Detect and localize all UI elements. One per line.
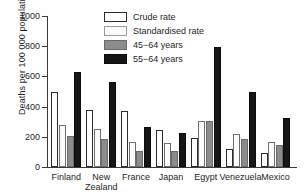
bar	[129, 142, 136, 167]
x-axis-line	[47, 167, 297, 168]
x-axis-label: Mexico	[247, 172, 304, 182]
bar	[101, 139, 108, 167]
y-tick-label: 600	[4, 72, 40, 81]
bar	[74, 72, 81, 167]
legend-item: 45−64 years	[104, 39, 204, 50]
bar	[283, 118, 290, 167]
bar	[121, 111, 128, 167]
bar	[276, 145, 283, 167]
bar	[171, 151, 178, 167]
bar	[109, 82, 116, 167]
y-tick-mark	[42, 167, 47, 168]
y-tick-mark	[42, 46, 47, 47]
bar	[268, 142, 275, 167]
bar	[164, 143, 171, 167]
legend-label: Standardised rate	[133, 26, 204, 36]
bar	[144, 127, 151, 167]
legend-label: 55−64 years	[133, 54, 183, 64]
bar-group	[226, 16, 256, 167]
bar	[226, 149, 233, 167]
bar-chart-figure: Deaths per 100 000 population 0200400600…	[0, 0, 304, 194]
bar	[198, 121, 205, 167]
legend-item: Standardised rate	[104, 25, 204, 36]
y-tick-mark	[42, 137, 47, 138]
bar	[59, 125, 66, 167]
y-tick-mark	[42, 16, 47, 17]
bar	[136, 151, 143, 167]
bar-group	[51, 16, 81, 167]
bar	[67, 136, 74, 167]
x-axis-label-line: Mexico	[261, 172, 290, 182]
bar	[241, 139, 248, 167]
bar	[214, 47, 221, 167]
legend-swatch	[104, 26, 127, 36]
bar	[191, 138, 198, 167]
bar	[206, 121, 213, 167]
y-axis-line	[47, 16, 48, 168]
bar-group	[261, 16, 291, 167]
bar	[179, 133, 186, 167]
bar	[249, 92, 256, 168]
legend-label: Crude rate	[133, 12, 176, 22]
bar	[156, 130, 163, 167]
y-tick-label: 800	[4, 42, 40, 51]
legend-item: Crude rate	[104, 11, 204, 22]
legend-swatch	[104, 40, 127, 50]
y-tick-label: 0	[4, 163, 40, 172]
bar	[86, 110, 93, 167]
bar	[94, 129, 101, 168]
legend-swatch	[104, 54, 127, 64]
bar	[51, 92, 58, 167]
legend-swatch	[104, 12, 127, 22]
y-tick-label: 400	[4, 102, 40, 111]
y-tick-mark	[42, 76, 47, 77]
y-tick-mark	[42, 107, 47, 108]
y-tick-label: 1000	[4, 12, 40, 21]
x-axis-label-line: Zealand	[72, 182, 130, 192]
legend-item: 55−64 years	[104, 53, 204, 64]
bar	[261, 153, 268, 167]
bar	[233, 134, 240, 167]
chart-legend: Crude rateStandardised rate45−64 years55…	[104, 11, 204, 64]
y-tick-label: 200	[4, 132, 40, 141]
legend-label: 45−64 years	[133, 40, 183, 50]
